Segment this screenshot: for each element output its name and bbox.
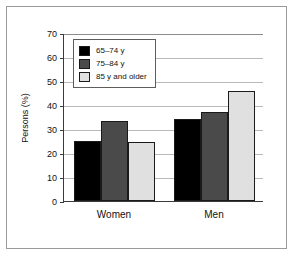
legend-swatch-icon <box>79 72 90 82</box>
legend-item: 85 y and older <box>79 70 147 83</box>
legend-item: 65–74 y <box>79 44 147 57</box>
plot-area: 010203040506070 WomenMen 65–74 y75–84 y8… <box>63 34 263 202</box>
y-tick-mark <box>60 106 64 107</box>
y-tick-mark <box>60 178 64 179</box>
y-tick-mark <box>60 202 64 203</box>
y-tick-mark <box>60 130 64 131</box>
bar <box>74 141 101 201</box>
bar <box>174 119 201 201</box>
bar-chart: Persons (%) 010203040506070 WomenMen 65–… <box>7 7 288 250</box>
figure-frame: Persons (%) 010203040506070 WomenMen 65–… <box>6 6 287 249</box>
y-tick-label: 60 <box>47 54 57 63</box>
y-tick-label: 40 <box>47 102 57 111</box>
x-axis-category-label: Men <box>204 210 223 220</box>
chart-legend: 65–74 y75–84 y85 y and older <box>73 39 156 88</box>
y-tick-mark <box>60 34 64 35</box>
y-tick-mark <box>60 82 64 83</box>
legend-swatch-icon <box>79 46 90 56</box>
bar <box>228 91 255 201</box>
y-tick-label: 50 <box>47 78 57 87</box>
y-tick-label: 0 <box>52 198 57 207</box>
legend-item-label: 65–74 y <box>96 47 124 55</box>
x-axis-category-label: Women <box>97 210 131 220</box>
legend-swatch-icon <box>79 59 90 69</box>
y-axis-title: Persons (%) <box>19 34 31 202</box>
bar <box>101 121 128 201</box>
bar <box>128 142 155 201</box>
y-tick-mark <box>60 58 64 59</box>
bar <box>201 112 228 201</box>
legend-item-label: 85 y and older <box>96 73 147 81</box>
y-tick-label: 70 <box>47 30 57 39</box>
legend-item: 75–84 y <box>79 57 147 70</box>
legend-item-label: 75–84 y <box>96 60 124 68</box>
y-tick-label: 30 <box>47 126 57 135</box>
y-tick-mark <box>60 154 64 155</box>
y-tick-label: 20 <box>47 150 57 159</box>
gridline <box>64 34 263 35</box>
y-tick-label: 10 <box>47 174 57 183</box>
